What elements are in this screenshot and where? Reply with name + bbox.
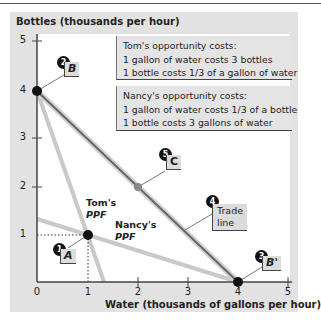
nancy-box-title: Nancy's opportunity costs: (123, 89, 292, 103)
nancy-ppf-name: Nancy's (115, 219, 157, 231)
trade-line-label: Trade line (212, 204, 247, 231)
y-tick-label-1: 1 (16, 228, 30, 239)
y-tick-label-4: 4 (16, 84, 30, 95)
x-tick-label-1: 1 (81, 286, 95, 297)
point-b-label: B (64, 62, 79, 77)
tom-ppf-label: Tom's PPF (86, 197, 116, 221)
point-c-marker (134, 183, 142, 191)
tom-box-title: Tom's opportunity costs: (123, 39, 292, 53)
trade-line-label-1: Trade (217, 205, 243, 217)
point-b-marker (32, 86, 42, 96)
point-b-prime-label: B' (262, 256, 281, 271)
point-a-label: A (60, 249, 76, 264)
tom-box-line-2: 1 bottle costs 1/3 of a gallon of water (123, 66, 292, 80)
x-axis-title: Water (thousands of gallons per hour) (105, 299, 321, 310)
y-axis-title: Bottles (thousands per hour) (16, 16, 180, 27)
nancy-box-line-1: 1 gallon of water costs 1/3 of a bottle (123, 103, 292, 117)
x-tick-label-3: 3 (181, 286, 195, 297)
tom-box-line-1: 1 gallon of water costs 3 bottles (123, 53, 292, 67)
x-tick-label-0: 0 (30, 286, 44, 297)
y-tick-label-3: 3 (16, 131, 30, 142)
tom-ppf-suffix: PPF (86, 209, 106, 220)
x-tick-label-2: 2 (131, 286, 145, 297)
x-tick-label-5: 5 (281, 286, 295, 297)
tom-ppf-name: Tom's (86, 197, 116, 209)
y-tick-label-5: 5 (16, 34, 30, 45)
tom-opportunity-costs-box: Tom's opportunity costs: 1 gallon of wat… (116, 36, 292, 80)
point-c-label: C (166, 155, 181, 170)
point-a-marker (83, 230, 93, 240)
nancy-box-line-2: 1 bottle costs 3 gallons of water (123, 116, 292, 130)
nancy-opportunity-costs-box: Nancy's opportunity costs: 1 gallon of w… (116, 86, 292, 131)
y-tick-label-2: 2 (16, 180, 30, 191)
nancy-ppf-label: Nancy's PPF (115, 219, 157, 243)
x-tick-label-4: 4 (231, 286, 245, 297)
trade-line-label-2: line (217, 217, 243, 229)
nancy-ppf-suffix: PPF (115, 231, 135, 242)
